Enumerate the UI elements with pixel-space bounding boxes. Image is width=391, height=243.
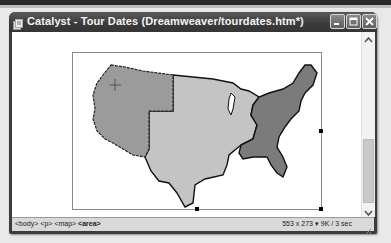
document-view[interactable] xyxy=(12,32,361,217)
close-button[interactable] xyxy=(362,14,377,29)
close-icon xyxy=(363,15,376,28)
us-map-image[interactable] xyxy=(72,52,322,210)
us-map-graphic xyxy=(73,53,321,209)
maximize-button[interactable] xyxy=(346,14,361,29)
resize-grip-icon[interactable] xyxy=(364,222,372,230)
maximize-icon xyxy=(347,15,360,28)
minimize-icon xyxy=(331,15,344,28)
download-time: 9K / 3 sec xyxy=(321,220,352,227)
minimize-button[interactable] xyxy=(330,14,345,29)
chevron-up-icon xyxy=(362,34,375,46)
title-bar[interactable]: Catalyst - Tour Dates (Dreamweaver/tourd… xyxy=(9,12,377,32)
tag-selector: <body> <p> <map> <area> xyxy=(15,220,101,227)
vertical-scrollbar[interactable] xyxy=(361,32,375,217)
window-size-popup[interactable]: 553 x 273 xyxy=(282,220,313,227)
window-title: Catalyst - Tour Dates (Dreamweaver/tourd… xyxy=(27,15,304,27)
tag-area[interactable]: <area> xyxy=(78,220,101,227)
scroll-down-button[interactable] xyxy=(362,205,375,217)
resize-handle-right[interactable] xyxy=(319,129,323,133)
scroll-thumb[interactable] xyxy=(363,139,374,203)
dreamweaver-document-icon xyxy=(13,16,23,27)
scroll-up-button[interactable] xyxy=(362,32,375,44)
tag-p[interactable]: <p> xyxy=(40,220,52,227)
window-size-dropdown-icon[interactable]: ▾ xyxy=(315,220,319,227)
status-info: 553 x 273 ▾ 9K / 3 sec xyxy=(282,220,352,228)
status-bar: <body> <p> <map> <area> 553 x 273 ▾ 9K /… xyxy=(12,217,374,231)
tag-body[interactable]: <body> xyxy=(15,220,38,227)
resize-handle-bottom[interactable] xyxy=(195,207,199,211)
tag-map[interactable]: <map> xyxy=(54,220,76,227)
document-window: Catalyst - Tour Dates (Dreamweaver/tourd… xyxy=(9,12,377,234)
resize-handle-corner[interactable] xyxy=(319,207,323,211)
desktop-top-strip-shade xyxy=(0,5,391,8)
